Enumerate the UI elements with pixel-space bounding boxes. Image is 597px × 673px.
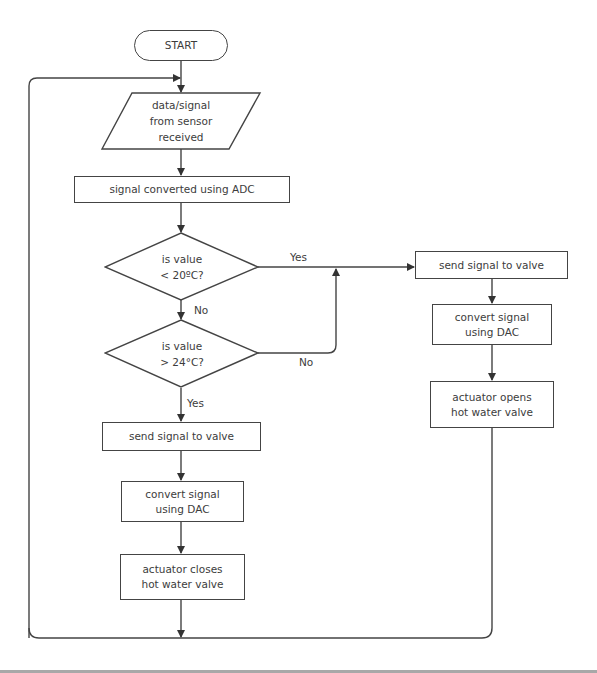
edge-label-low-no: No xyxy=(194,304,208,316)
left-send-signal-box: send signal to valve xyxy=(102,422,261,451)
adc-process-box: signal converted using ADC xyxy=(74,176,290,203)
left-send-label: send signal to valve xyxy=(129,429,234,444)
input-line-1: data/signal xyxy=(152,97,210,113)
right-send-label: send signal to valve xyxy=(439,258,544,273)
right-dac-line-1: convert signal xyxy=(455,310,529,325)
start-terminator: START xyxy=(134,30,228,61)
adc-label: signal converted using ADC xyxy=(109,182,254,197)
edge-label-high-no: No xyxy=(299,356,313,368)
right-convert-dac-box: convert signal using DAC xyxy=(432,304,552,345)
decision-high-line-2: > 24°C? xyxy=(160,354,204,370)
decision-low-line-2: < 20ºC? xyxy=(160,267,203,283)
left-actuator-line-2: hot water valve xyxy=(141,577,223,592)
right-actuator-line-1: actuator opens xyxy=(452,390,531,405)
flowchart: START data/signal from sensor received s… xyxy=(0,0,597,673)
left-convert-dac-box: convert signal using DAC xyxy=(121,481,244,522)
arrow-high-no-return xyxy=(258,269,336,353)
right-actuator-opens-box: actuator opens hot water valve xyxy=(430,381,554,428)
input-line-3: received xyxy=(158,129,203,145)
left-actuator-line-1: actuator closes xyxy=(142,562,222,577)
decision-low-line-1: is value xyxy=(162,251,202,267)
input-parallelogram: data/signal from sensor received xyxy=(100,92,262,150)
edge-label-low-yes: Yes xyxy=(290,251,307,263)
left-dac-line-2: using DAC xyxy=(156,502,210,517)
right-actuator-line-2: hot water valve xyxy=(451,405,533,420)
left-actuator-closes-box: actuator closes hot water valve xyxy=(120,554,245,600)
loop-bottom-line xyxy=(29,428,492,638)
edge-label-high-yes: Yes xyxy=(187,397,204,409)
input-line-2: from sensor xyxy=(150,113,213,129)
left-dac-line-1: convert signal xyxy=(145,487,219,502)
right-dac-line-2: using DAC xyxy=(465,325,519,340)
decision-high-diamond: is value > 24°C? xyxy=(104,319,260,389)
right-send-signal-box: send signal to valve xyxy=(415,251,568,279)
start-label: START xyxy=(165,38,197,53)
decision-low-diamond: is value < 20ºC? xyxy=(104,232,260,302)
decision-high-line-1: is value xyxy=(162,338,202,354)
